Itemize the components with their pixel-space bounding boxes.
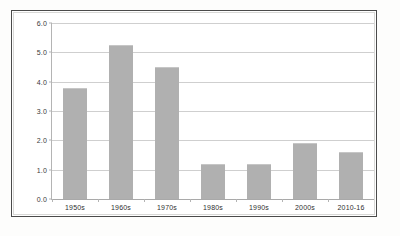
x-tick-label-1980s: 1980s [190,204,236,211]
plot-area: 0.01.02.03.04.05.06.0 [52,23,374,199]
bar-1990s [247,164,271,199]
bar-slot [190,23,236,199]
x-tick-label-2010-16: 2010-16 [328,204,374,211]
y-tick-label-1.0: 1.0 [37,166,47,173]
x-axis-labels: 1950s1960s1970s1980s1990s2000s2010-16 [52,204,374,211]
y-tick-label-6.0: 6.0 [37,20,47,27]
x-tick-label-1950s: 1950s [52,204,98,211]
bar-slot [236,23,282,199]
chart-figure: 0.01.02.03.04.05.06.0 1950s1960s1970s198… [0,0,400,236]
x-tick-label-1970s: 1970s [144,204,190,211]
bar-1970s [155,67,179,199]
x-tick-mark [98,199,99,202]
x-tick-mark [374,199,375,202]
bar-2000s [293,143,317,199]
bar-slot [328,23,374,199]
x-tick-mark [328,199,329,202]
x-tick-mark [282,199,283,202]
bar-series [52,23,374,199]
bar-1980s [201,164,225,199]
y-tick-label-0.0: 0.0 [37,196,47,203]
y-tick-label-4.0: 4.0 [37,78,47,85]
x-tick-label-1990s: 1990s [236,204,282,211]
x-tick-label-2000s: 2000s [282,204,328,211]
gridline-0.0 [52,199,374,200]
x-tick-mark [190,199,191,202]
x-tick-mark [236,199,237,202]
y-tick-label-2.0: 2.0 [37,137,47,144]
bar-slot [52,23,98,199]
y-tick-label-3.0: 3.0 [37,108,47,115]
x-tick-mark [52,199,53,202]
y-tick-label-5.0: 5.0 [37,49,47,56]
bar-1960s [109,45,133,199]
x-tick-label-1960s: 1960s [98,204,144,211]
bar-2010-16 [339,152,363,199]
x-tick-mark [144,199,145,202]
bar-slot [282,23,328,199]
bar-1950s [63,88,87,199]
chart-frame: 0.01.02.03.04.05.06.0 1950s1960s1970s198… [11,10,377,217]
bar-slot [98,23,144,199]
bar-slot [144,23,190,199]
